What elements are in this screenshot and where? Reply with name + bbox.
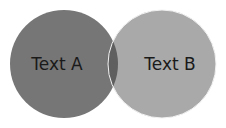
venn-diagram: Text A Text B [0,0,226,128]
set-b-label: Text B [143,54,195,74]
set-a-label: Text A [30,54,83,74]
